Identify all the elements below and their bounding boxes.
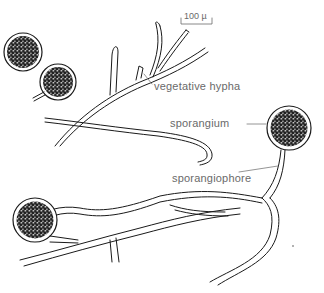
- label-sporangiophore: sporangiophore: [172, 172, 251, 184]
- hypha-diagram: [0, 0, 324, 293]
- sporangium-bottom-left: [13, 198, 78, 243]
- sporangium-top-left-2: [33, 64, 76, 101]
- lower-hyphae: [20, 192, 262, 266]
- sporangium-right: [267, 106, 311, 150]
- scale-bar-label: 100 µ: [184, 11, 207, 21]
- sporangiophore: [210, 150, 285, 285]
- label-sporangium: sporangium: [170, 117, 229, 129]
- label-vegetative-hypha: vegetative hypha: [154, 80, 240, 92]
- sporangium-top-left-1: [4, 33, 42, 71]
